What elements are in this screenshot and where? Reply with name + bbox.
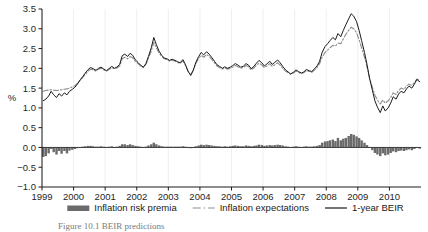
svg-text:2007: 2007 [284, 191, 305, 202]
svg-text:3.5: 3.5 [23, 3, 36, 14]
svg-text:2.0: 2.0 [23, 63, 36, 74]
beir-chart: −1.0−0.50.00.51.01.52.02.53.03.5 1999200… [0, 0, 428, 232]
svg-text:2006: 2006 [253, 191, 274, 202]
chart-legend: Inflation risk premiaInflation expectati… [67, 202, 404, 213]
svg-text:2003: 2003 [158, 191, 179, 202]
figure-container: −1.0−0.50.00.51.01.52.02.53.03.5 1999200… [0, 0, 428, 232]
svg-text:2000: 2000 [63, 191, 84, 202]
svg-text:−0.5: −0.5 [17, 162, 36, 173]
svg-text:2002: 2002 [126, 191, 147, 202]
svg-text:0.0: 0.0 [23, 142, 36, 153]
figure-caption: Figure 10.1 BEIR predictions [58, 221, 165, 231]
legend-item-label: Inflation risk premia [94, 202, 177, 213]
svg-text:0.5: 0.5 [23, 122, 36, 133]
svg-text:1.5: 1.5 [23, 83, 36, 94]
svg-text:1.0: 1.0 [23, 102, 36, 113]
svg-text:2005: 2005 [221, 191, 242, 202]
legend-item-label: 1-year BEIR [352, 202, 404, 213]
legend-item-label: Inflation expectations [220, 202, 310, 213]
svg-text:2008: 2008 [316, 191, 337, 202]
svg-text:2009: 2009 [347, 191, 368, 202]
svg-text:3.0: 3.0 [23, 23, 36, 34]
svg-text:2.5: 2.5 [23, 43, 36, 54]
y-axis-title: % [8, 92, 17, 103]
svg-text:1999: 1999 [31, 191, 52, 202]
svg-text:2001: 2001 [95, 191, 116, 202]
legend-bar-swatch [67, 206, 89, 212]
svg-text:2004: 2004 [189, 191, 210, 202]
svg-text:2010: 2010 [379, 191, 400, 202]
